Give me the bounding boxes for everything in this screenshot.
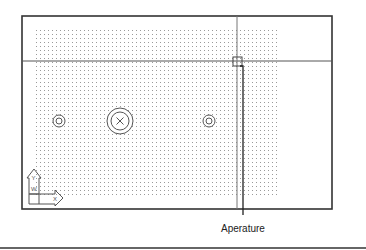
ucs-y-label: Y xyxy=(32,175,36,181)
drawing-area-frame xyxy=(22,16,332,209)
drawing-canvas: Y W X xyxy=(0,0,366,250)
ucs-x-label: X xyxy=(53,196,57,202)
small-circle-left xyxy=(53,115,65,127)
snap-grid xyxy=(36,30,277,195)
ucs-w-label: W xyxy=(31,186,37,192)
large-circle-center xyxy=(107,108,133,134)
small-circle-right xyxy=(203,115,215,127)
aperture-callout-label: Aperature xyxy=(221,223,265,234)
callout-leader-line xyxy=(240,66,243,215)
